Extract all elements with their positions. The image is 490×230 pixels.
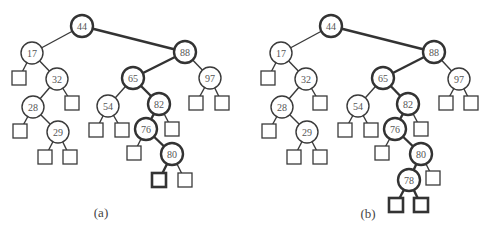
tree-a: 441732282988659754827680(a) — [12, 15, 229, 220]
node-key-label: 44 — [326, 21, 336, 32]
external-leaf-node — [375, 146, 389, 160]
node-key-label: 54 — [103, 101, 113, 112]
external-leaf-node — [127, 146, 141, 160]
external-leaf-node — [414, 122, 428, 136]
node-key-label: 32 — [52, 74, 62, 85]
tree-node-32: 32 — [295, 68, 317, 90]
edge-44-88 — [331, 26, 434, 52]
node-key-label: 32 — [301, 74, 311, 85]
tree-node-32: 32 — [46, 68, 68, 90]
external-leaf-node — [63, 150, 77, 164]
node-key-label: 88 — [429, 47, 439, 58]
tree-node-54: 54 — [97, 95, 119, 117]
external-leaf-node — [178, 173, 192, 187]
node-key-label: 88 — [180, 47, 190, 58]
external-leaf-node — [115, 123, 129, 137]
node-key-label: 28 — [28, 102, 38, 113]
external-leaf-node — [152, 173, 166, 187]
node-key-label: 28 — [277, 102, 287, 113]
external-leaf-node — [313, 96, 327, 110]
tree-node-80: 80 — [161, 143, 183, 165]
tree-node-44: 44 — [320, 15, 342, 37]
tree-node-65: 65 — [372, 67, 394, 89]
node-key-label: 44 — [77, 21, 87, 32]
external-leaf-node — [414, 198, 428, 212]
tree-node-28: 28 — [22, 96, 44, 118]
tree-node-29: 29 — [296, 121, 318, 143]
node-key-label: 17 — [276, 48, 286, 59]
node-key-label: 78 — [404, 175, 414, 186]
tree-node-80: 80 — [410, 143, 432, 165]
node-key-label: 97 — [205, 73, 215, 84]
tree-node-76: 76 — [135, 118, 157, 140]
tree-node-65: 65 — [122, 67, 144, 89]
tree-b: 44173228298865975482768078(b) — [261, 15, 478, 221]
figure-caption-a: (a) — [94, 205, 108, 220]
external-leaf-node — [439, 96, 453, 110]
tree-node-97: 97 — [199, 67, 221, 89]
tree-node-44: 44 — [71, 15, 93, 37]
tree-node-97: 97 — [448, 68, 470, 90]
external-leaf-node — [287, 150, 301, 164]
tree-node-28: 28 — [271, 96, 293, 118]
node-key-label: 80 — [167, 149, 177, 160]
external-leaf-node — [13, 124, 27, 138]
node-key-label: 76 — [141, 124, 151, 135]
node-key-label: 54 — [353, 101, 363, 112]
tree-node-54: 54 — [347, 95, 369, 117]
external-leaf-node — [426, 171, 440, 185]
tree-node-17: 17 — [21, 42, 43, 64]
node-key-label: 82 — [403, 99, 413, 110]
node-key-label: 65 — [128, 73, 138, 84]
external-leaf-node — [65, 96, 79, 110]
node-key-label: 76 — [390, 124, 400, 135]
edge-44-88 — [82, 26, 185, 52]
external-leaf-node — [12, 71, 26, 85]
tree-node-78: 78 — [398, 169, 420, 191]
external-leaf-node — [215, 96, 229, 110]
external-leaf-node — [89, 123, 103, 137]
node-key-label: 80 — [416, 149, 426, 160]
tree-node-88: 88 — [174, 41, 196, 63]
external-leaf-node — [262, 124, 276, 138]
node-key-label: 65 — [378, 73, 388, 84]
external-leaf-node — [165, 122, 179, 136]
tree-node-82: 82 — [148, 93, 170, 115]
external-leaf-node — [364, 123, 378, 137]
node-key-label: 97 — [454, 74, 464, 85]
figure-caption-b: (b) — [360, 206, 375, 221]
external-leaf-node — [189, 96, 203, 110]
tree-node-17: 17 — [270, 42, 292, 64]
external-leaf-node — [389, 198, 403, 212]
tree-node-29: 29 — [47, 121, 69, 143]
external-leaf-node — [313, 150, 327, 164]
external-leaf-node — [38, 150, 52, 164]
tree-node-82: 82 — [397, 93, 419, 115]
node-key-label: 29 — [302, 127, 312, 138]
tree-node-88: 88 — [423, 41, 445, 63]
node-key-label: 82 — [154, 99, 164, 110]
tree-diagram-canvas: 441732282988659754827680(a)4417322829886… — [0, 0, 490, 230]
external-leaf-node — [261, 71, 275, 85]
node-key-label: 17 — [27, 48, 37, 59]
binary-search-tree-figure: 441732282988659754827680(a)4417322829886… — [0, 0, 490, 230]
external-leaf-node — [338, 123, 352, 137]
node-key-label: 29 — [53, 127, 63, 138]
tree-node-76: 76 — [384, 118, 406, 140]
external-leaf-node — [464, 96, 478, 110]
